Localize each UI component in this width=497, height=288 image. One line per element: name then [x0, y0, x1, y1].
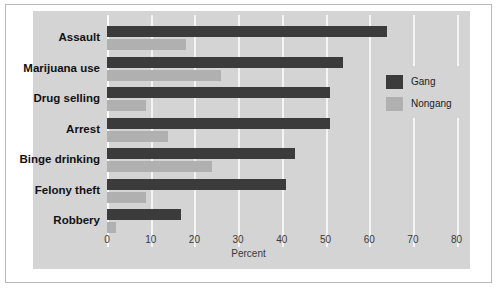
- bar-nongang-robbery: [107, 222, 116, 233]
- bar-group: [107, 118, 459, 144]
- legend-swatch-gang: [386, 75, 403, 89]
- bar-group: [107, 179, 459, 205]
- bar-group: [107, 26, 459, 52]
- category-label-robbery: Robbery: [53, 214, 100, 226]
- bar-gang-binge-drinking: [107, 148, 295, 159]
- x-tick-60: 60: [354, 234, 384, 245]
- bar-nongang-marijuana-use: [107, 70, 221, 81]
- chart-figure: AssaultMarijuana useDrug sellingArrestBi…: [0, 0, 497, 288]
- category-label-marijuana-use: Marijuana use: [23, 62, 100, 74]
- bar-gang-assault: [107, 26, 387, 37]
- x-tick-80: 80: [442, 234, 472, 245]
- category-axis-labels: AssaultMarijuana useDrug sellingArrestBi…: [0, 11, 100, 269]
- category-label-felony-theft: Felony theft: [35, 184, 100, 196]
- plot-area: [107, 15, 459, 233]
- bar-nongang-assault: [107, 39, 186, 50]
- bar-gang-drug-selling: [107, 87, 330, 98]
- category-label-arrest: Arrest: [66, 123, 100, 135]
- x-axis-tick-labels: 01020304050607080: [107, 234, 487, 248]
- bar-gang-robbery: [107, 209, 181, 220]
- bar-nongang-felony-theft: [107, 192, 146, 203]
- bar-nongang-arrest: [107, 131, 168, 142]
- x-tick-40: 40: [267, 234, 297, 245]
- category-label-binge-drinking: Binge drinking: [20, 153, 101, 165]
- x-axis-title: Percent: [0, 248, 497, 259]
- legend-swatch-nongang: [386, 97, 403, 111]
- bar-gang-felony-theft: [107, 179, 286, 190]
- x-tick-30: 30: [223, 234, 253, 245]
- x-tick-0: 0: [92, 234, 122, 245]
- legend-label-nongang: Nongang: [411, 98, 452, 109]
- legend-label-gang: Gang: [411, 76, 435, 87]
- x-tick-70: 70: [398, 234, 428, 245]
- bar-nongang-binge-drinking: [107, 161, 212, 172]
- bar-nongang-drug-selling: [107, 100, 146, 111]
- category-label-assault: Assault: [58, 31, 100, 43]
- bar-gang-marijuana-use: [107, 57, 343, 68]
- chart-legend: GangNongang: [378, 66, 464, 118]
- bar-group: [107, 209, 459, 235]
- x-tick-20: 20: [179, 234, 209, 245]
- x-tick-50: 50: [311, 234, 341, 245]
- x-tick-10: 10: [136, 234, 166, 245]
- category-label-drug-selling: Drug selling: [34, 92, 100, 104]
- bar-group: [107, 148, 459, 174]
- bar-gang-arrest: [107, 118, 330, 129]
